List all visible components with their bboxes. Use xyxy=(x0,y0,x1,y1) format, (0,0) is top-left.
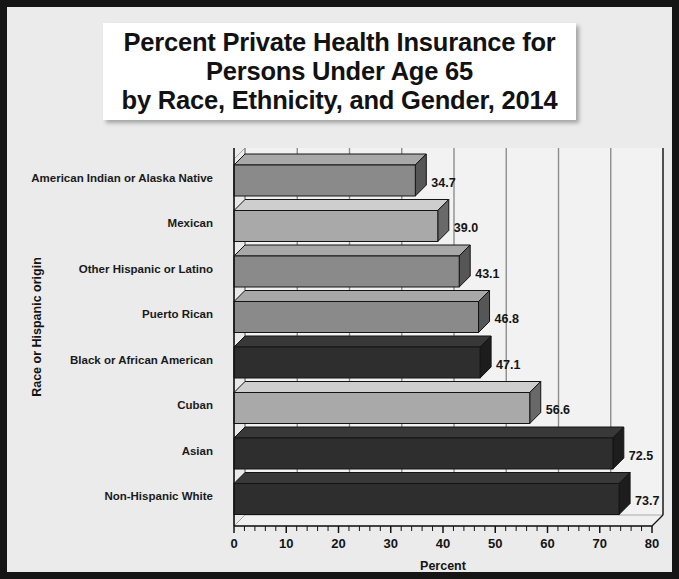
value-label-4: 47.1 xyxy=(496,358,520,372)
category-label-5: Cuban xyxy=(177,399,213,411)
bar-7 xyxy=(234,473,630,515)
category-label-6: Asian xyxy=(182,445,213,457)
bar-4 xyxy=(234,336,491,378)
value-label-2: 43.1 xyxy=(475,267,499,281)
value-label-7: 73.7 xyxy=(635,494,659,508)
bar-2 xyxy=(234,245,470,287)
x-tick-label-70: 70 xyxy=(580,536,620,551)
y-axis-title: Race or Hispanic origin xyxy=(30,257,44,397)
category-label-0: American Indian or Alaska Native xyxy=(31,172,213,184)
value-label-3: 46.8 xyxy=(495,312,519,326)
category-label-4: Black or African American xyxy=(70,354,213,366)
bar-3 xyxy=(234,291,490,333)
value-label-1: 39.0 xyxy=(454,221,478,235)
chart-frame: Percent Private Health Insurance for Per… xyxy=(0,0,679,579)
x-tick-label-30: 30 xyxy=(371,536,411,551)
x-tick-label-0: 0 xyxy=(214,536,254,551)
category-label-7: Non-Hispanic White xyxy=(104,490,213,502)
x-tick-label-60: 60 xyxy=(528,536,568,551)
bar-6 xyxy=(234,427,624,469)
bar-0 xyxy=(234,154,426,196)
plot-floor xyxy=(234,515,663,526)
category-label-1: Mexican xyxy=(168,217,213,229)
x-tick-label-10: 10 xyxy=(266,536,306,551)
category-label-3: Puerto Rican xyxy=(142,308,213,320)
value-label-5: 56.6 xyxy=(546,403,570,417)
x-tick-label-20: 20 xyxy=(319,536,359,551)
bar-1 xyxy=(234,200,449,242)
x-tick-label-40: 40 xyxy=(423,536,463,551)
value-label-0: 34.7 xyxy=(431,176,455,190)
x-axis-title: Percent xyxy=(234,559,652,573)
category-label-2: Other Hispanic or Latino xyxy=(79,263,213,275)
bar-5 xyxy=(234,382,541,424)
x-tick-label-80: 80 xyxy=(632,536,672,551)
x-tick-label-50: 50 xyxy=(475,536,515,551)
value-label-6: 72.5 xyxy=(629,449,653,463)
